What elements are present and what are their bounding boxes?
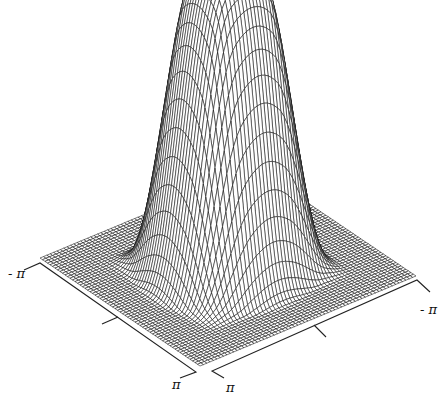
surface-plot <box>0 0 446 405</box>
y-axis-label-min: π <box>226 380 235 395</box>
surface-mesh <box>40 0 416 366</box>
x-axis-mid-tick <box>102 317 118 324</box>
y-axis-mid-tick <box>314 325 326 337</box>
y-axis-label-max: - π <box>420 302 437 317</box>
x-axis-label-min: - π <box>8 266 25 281</box>
x-axis-label-max: π <box>172 377 181 392</box>
